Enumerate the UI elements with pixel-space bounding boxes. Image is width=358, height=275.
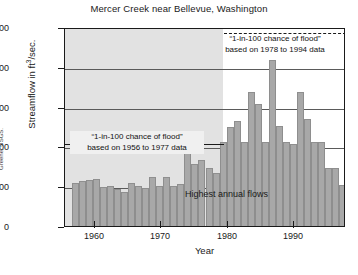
y-tick-mark-0 xyxy=(58,227,64,228)
bar-1986 xyxy=(283,142,290,226)
bar-1993 xyxy=(332,168,339,226)
bar-1977 xyxy=(220,142,227,226)
bar-1972 xyxy=(184,143,191,226)
bar-1992 xyxy=(325,168,332,226)
x-tick-mark-1960 xyxy=(94,221,95,228)
bar-1962 xyxy=(114,189,121,226)
bar-1958 xyxy=(86,180,93,226)
bar-1979 xyxy=(234,121,241,226)
x-axis-label: Year xyxy=(64,245,345,256)
y-axis-label-tail: /sec. xyxy=(26,40,37,60)
x-tick-label-1960: 1960 xyxy=(84,231,104,241)
bar-1966 xyxy=(142,188,149,226)
x-tick-mark-1970 xyxy=(160,221,161,228)
annotation-flood-1956-1977-line2: based on 1956 to 1977 data xyxy=(73,143,201,154)
bar-1983 xyxy=(262,142,269,226)
y-tick-label-1000: 1,000 xyxy=(0,23,9,33)
bar-1982 xyxy=(255,104,262,226)
bar-1967 xyxy=(149,177,156,226)
bar-1987 xyxy=(290,144,297,226)
bar-1988 xyxy=(297,92,304,226)
x-tick-label-1980: 1980 xyxy=(217,231,237,241)
x-tick-label-1970: 1970 xyxy=(150,231,170,241)
y-tick-label-200: 200 xyxy=(0,182,9,192)
bar-1994 xyxy=(339,185,345,226)
plot-area: Highest annual flows xyxy=(64,28,345,227)
bar-1990 xyxy=(311,142,318,226)
bar-1980 xyxy=(241,142,248,226)
bar-1976 xyxy=(213,173,220,226)
y-tick-label-400: 400 xyxy=(0,142,9,152)
y-tick-label-0: 0 xyxy=(0,222,9,232)
chart-figure: Mercer Creek near Bellevue, Washington S… xyxy=(0,0,358,275)
bar-1963 xyxy=(121,192,128,226)
bar-1957 xyxy=(79,181,86,226)
bar-1956 xyxy=(72,183,79,226)
chart-title: Mercer Creek near Bellevue, Washington xyxy=(0,3,358,14)
bar-1960 xyxy=(100,187,107,226)
bar-1981 xyxy=(248,92,255,226)
y-axis-label-exponent: 3 xyxy=(25,60,32,64)
series-label-highest-annual-flows: Highest annual flows xyxy=(185,189,268,199)
bar-1985 xyxy=(276,126,283,226)
x-tick-label-1990: 1990 xyxy=(283,231,303,241)
y-tick-label-600: 600 xyxy=(0,103,9,113)
bar-1965 xyxy=(135,186,142,226)
bar-1984 xyxy=(269,60,276,226)
bar-1961 xyxy=(107,186,114,226)
annotation-flood-1978-1994: “1-in-100 chance of flood” based on 1978… xyxy=(209,34,341,55)
bar-1969 xyxy=(163,177,170,226)
bar-1964 xyxy=(128,183,135,226)
x-tick-mark-1990 xyxy=(293,221,294,228)
bar-1989 xyxy=(304,119,311,226)
y-axis-label: Streamflow in ft3/sec. xyxy=(25,9,37,159)
bar-1970 xyxy=(170,186,177,226)
bar-1971 xyxy=(177,184,184,226)
bar-1959 xyxy=(93,179,100,226)
bar-1978 xyxy=(227,127,234,227)
bar-1991 xyxy=(318,142,325,226)
y-tick-label-800: 800 xyxy=(0,63,9,73)
annotation-flood-1956-1977: “1-in-100 chance of flood” based on 1956… xyxy=(70,131,204,154)
annotation-flood-1956-1977-line1: “1-in-100 chance of flood” xyxy=(73,132,201,143)
x-tick-mark-1980 xyxy=(227,221,228,228)
annotation-flood-1978-1994-line1: “1-in-100 chance of flood” xyxy=(209,34,341,45)
y-axis-label-base: Streamflow in ft xyxy=(26,63,37,128)
annotation-flood-1978-1994-line2: based on 1978 to 1994 data xyxy=(209,45,341,56)
